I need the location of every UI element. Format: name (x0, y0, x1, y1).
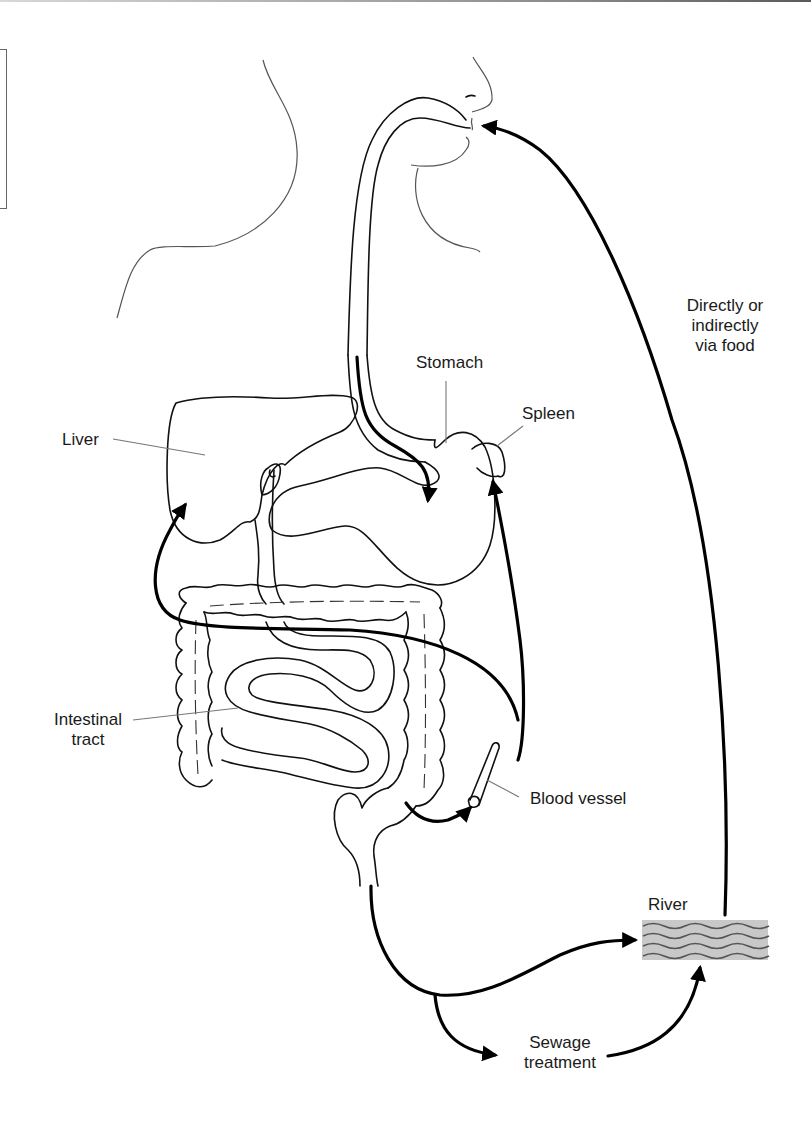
label-stomach: Stomach (416, 353, 483, 373)
arrow-to-sewage (435, 995, 495, 1055)
label-intestinal-tract: Intestinal tract (43, 710, 133, 750)
diagram-canvas: Liver Stomach Spleen Intestinal tract Bl… (0, 0, 811, 1121)
label-sewage-line2: treatment (510, 1053, 610, 1073)
intestine-leader (133, 708, 238, 720)
arrow-anus-to-river (371, 886, 635, 995)
stomach-outline (269, 432, 495, 585)
flow-arrows (155, 126, 726, 1056)
label-intestinal-line1: Intestinal (43, 710, 133, 730)
colon-outline (176, 584, 445, 806)
liver-outline (167, 395, 357, 543)
blood-vessel-leader (487, 780, 519, 797)
river-illustration (642, 920, 769, 960)
spleen-outline (472, 443, 505, 477)
label-intestinal-line2: tract (43, 730, 133, 750)
anatomy-illustration (0, 0, 811, 1121)
label-liver: Liver (62, 430, 99, 450)
label-river: River (648, 895, 688, 915)
label-direct-line1: Directly or (670, 296, 780, 316)
head-outline (117, 57, 492, 318)
label-sewage-line1: Sewage (510, 1033, 610, 1053)
bile-duct-outline (255, 470, 284, 604)
label-blood-vessel: Blood vessel (530, 789, 626, 809)
liver-leader (113, 439, 205, 455)
label-sewage-treatment: Sewage treatment (510, 1033, 610, 1073)
label-directly-or-indirectly: Directly or indirectly via food (670, 296, 780, 356)
leader-lines (113, 381, 523, 797)
small-intestine-outline (222, 622, 394, 788)
spleen-leader (497, 426, 523, 446)
label-spleen: Spleen (522, 404, 575, 424)
blood-vessel-outline (469, 743, 500, 807)
arrow-sewage-to-river (608, 968, 700, 1056)
label-direct-line3: via food (670, 336, 780, 356)
rectum-outline (334, 788, 416, 886)
label-direct-line2: indirectly (670, 316, 780, 336)
esophagus-outline (348, 98, 470, 462)
